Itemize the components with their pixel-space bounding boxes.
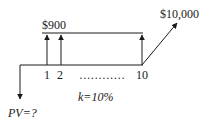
period-label-2: 2 [57,68,63,82]
future-value-arrow [142,23,177,65]
future-value-label: $10,000 [160,7,199,21]
payment-label: $900 [42,18,66,32]
period-label-1: 1 [44,68,50,82]
cash-flow-diagram: $900 $10,000 1 2 ………… 10 k=10% PV=? [0,0,210,122]
period-ellipsis: ………… [79,68,125,82]
rate-label: k=10% [78,90,113,104]
present-value-label: PV=? [7,106,37,120]
period-label-10: 10 [136,68,148,82]
